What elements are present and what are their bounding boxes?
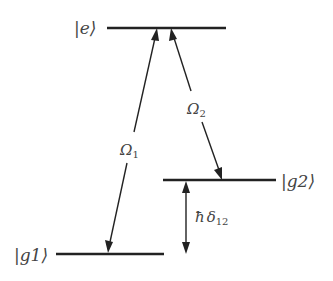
omega2-arrowhead-down-icon <box>214 167 222 180</box>
detuning-arrow <box>182 181 190 254</box>
detuning-arrowhead-down-icon <box>182 242 190 254</box>
omega2-arrow-lower-segment <box>202 122 219 170</box>
omega1-arrow-lower-segment <box>110 163 127 242</box>
energy-level-diagram: |e⟩ |g1⟩ |g2⟩ Ω1 Ω2 ħδ12 <box>0 0 333 281</box>
detuning-label: ħδ12 <box>195 208 228 227</box>
omega2-arrow-upper-segment <box>174 38 191 91</box>
omega1-arrow-upper-segment <box>134 38 155 132</box>
omega1-arrowhead-down-icon <box>105 240 113 253</box>
omega2-arrowhead-up-icon <box>169 28 177 41</box>
omega2-label: Ω2 <box>186 100 206 119</box>
level-e-label: |e⟩ <box>74 18 96 38</box>
omega1-arrowhead-up-icon <box>151 28 159 41</box>
level-g1-label: |g1⟩ <box>14 245 48 265</box>
omega1-label: Ω1 <box>119 141 139 160</box>
level-g2-label: |g2⟩ <box>281 171 315 191</box>
detuning-arrowhead-up-icon <box>182 181 190 193</box>
